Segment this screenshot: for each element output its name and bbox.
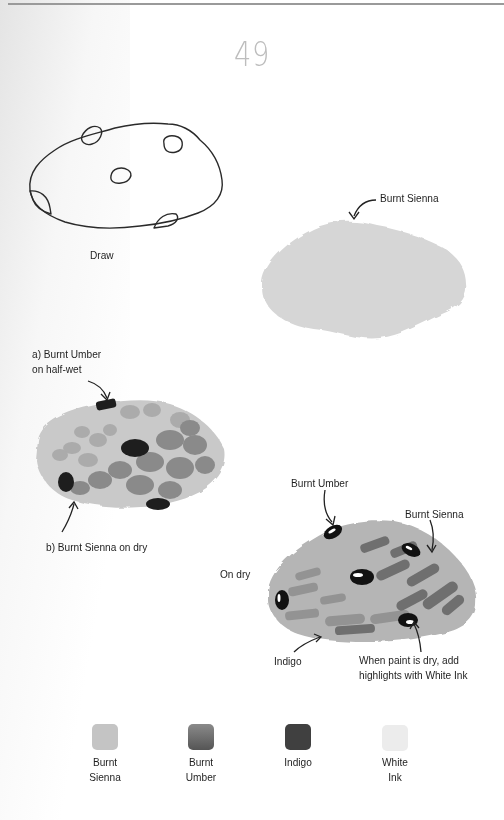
top-rule xyxy=(8,3,504,5)
swatch-burnt-umber xyxy=(188,724,214,750)
indigo-label: Indigo xyxy=(274,654,302,669)
page-edge-shadow xyxy=(0,0,130,820)
swatch-label-burnt-sienna: Burnt Sienna xyxy=(70,755,140,785)
burnt-umber-half-wet-label-line1: a) Burnt Umber xyxy=(32,347,101,362)
swatch-label-white-ink: White Ink xyxy=(360,755,430,785)
swatch-white-ink xyxy=(382,725,408,751)
burnt-sienna-label: Burnt Sienna xyxy=(405,507,464,522)
white-ink-highlight-label-line1: When paint is dry, add xyxy=(359,653,459,668)
burnt-sienna-on-dry-label: b) Burnt Sienna on dry xyxy=(46,540,147,555)
draw-label: Draw xyxy=(90,248,114,263)
swatch-burnt-sienna xyxy=(92,724,118,750)
on-dry-label: On dry xyxy=(220,567,250,582)
burnt-umber-half-wet-label-line2: on half-wet xyxy=(32,362,82,377)
burnt-sienna-wash-label: Burnt Sienna xyxy=(380,191,439,206)
final-pebble-illustration xyxy=(0,0,504,820)
swatch-indigo xyxy=(285,724,311,750)
swatch-label-indigo: Indigo xyxy=(263,755,333,770)
burnt-umber-label: Burnt Umber xyxy=(291,476,348,491)
base-wash-illustration xyxy=(0,0,504,820)
textured-pebble-illustration xyxy=(0,0,504,820)
page-number: 49 xyxy=(50,34,453,74)
swatch-label-burnt-umber: Burnt Umber xyxy=(166,755,236,785)
white-ink-highlight-label-line2: highlights with White Ink xyxy=(359,668,468,683)
pebble-outline-drawing xyxy=(0,0,504,820)
